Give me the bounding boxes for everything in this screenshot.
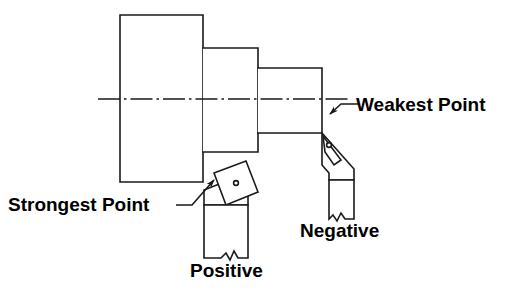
positive-insert-hole bbox=[234, 181, 239, 186]
positive-tool-shank bbox=[204, 205, 248, 260]
strongest-point-label: Strongest Point bbox=[8, 194, 149, 216]
weakest-point-label: Weakest Point bbox=[356, 94, 486, 116]
weakest-point-leader bbox=[330, 104, 358, 114]
shaft-step-medium bbox=[203, 48, 258, 152]
shaft-step-small bbox=[258, 68, 322, 133]
negative-insert-hole bbox=[327, 143, 332, 148]
negative-tool-shank bbox=[329, 180, 354, 221]
negative-rake-tool bbox=[322, 133, 354, 221]
negative-tool-label: Negative bbox=[300, 220, 379, 242]
positive-tool-label: Positive bbox=[190, 260, 263, 282]
diagram-stage: Weakest Point Strongest Point Negative P… bbox=[0, 0, 508, 300]
technical-drawing-canvas bbox=[0, 0, 508, 300]
positive-rake-tool bbox=[204, 161, 258, 260]
